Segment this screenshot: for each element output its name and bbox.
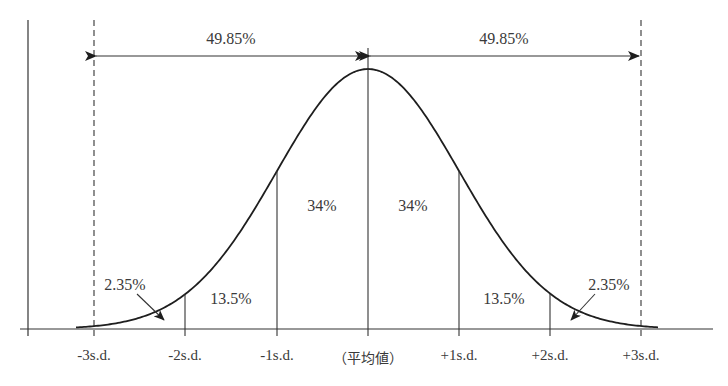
- left-2sd-percent-label: 13.5%: [210, 290, 251, 307]
- right-2sd-percent-label: 13.5%: [483, 290, 524, 307]
- tick-label-plus-1sd: +1s.d.: [441, 347, 478, 363]
- right-half-percent-label: 49.85%: [479, 30, 528, 47]
- tick-label-mean: （平均値）: [333, 351, 403, 366]
- left-tail-pointer-arrow: [137, 294, 164, 320]
- tick-label-minus-1sd: -1s.d.: [260, 347, 293, 363]
- left-tail-percent-label: 2.35%: [104, 276, 145, 293]
- right-1sd-percent-label: 34%: [398, 197, 427, 214]
- tick-label-minus-2sd: -2s.d.: [168, 347, 201, 363]
- axis-tick-labels: -3s.d. -2s.d. -1s.d. （平均値） +1s.d. +2s.d.…: [77, 347, 659, 366]
- left-1sd-percent-label: 34%: [307, 197, 336, 214]
- left-half-percent-label: 49.85%: [206, 30, 255, 47]
- tick-label-plus-3sd: +3s.d.: [623, 347, 660, 363]
- tick-label-plus-2sd: +2s.d.: [532, 347, 569, 363]
- normal-distribution-diagram: 49.85% 49.85% 34% 34% 13.5% 13.5% 2.35% …: [0, 0, 728, 386]
- bell-curve: [76, 69, 658, 327]
- tick-label-minus-3sd: -3s.d.: [77, 347, 110, 363]
- right-tail-percent-label: 2.35%: [588, 276, 629, 293]
